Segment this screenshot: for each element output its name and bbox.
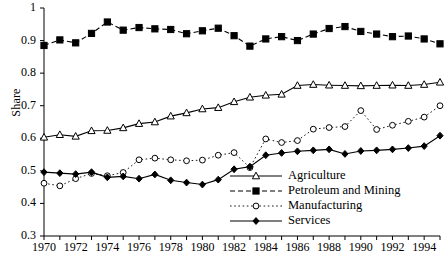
marker-diamond [279,150,285,157]
marker-square [183,31,189,37]
marker-square [374,31,380,37]
marker-square [57,37,63,43]
marker-square [263,36,269,42]
series-line [44,82,440,137]
marker-circle [168,157,174,163]
marker-circle [405,118,411,124]
marker-square [437,41,443,47]
marker-square [279,34,285,40]
marker-circle [326,125,332,131]
marker-square [152,26,158,32]
marker-diamond [405,145,411,152]
marker-circle [358,108,364,114]
series-line [44,22,440,46]
marker-square [421,36,427,42]
marker-diamond [263,152,269,159]
series-petroleum-and-mining [41,19,443,49]
marker-square [104,19,110,25]
marker-circle [374,127,380,133]
marker-diamond [136,175,142,182]
marker-diamond [57,170,63,177]
marker-circle [279,140,285,146]
marker-square [358,28,364,34]
marker-square [294,37,300,43]
chart-figure: Share 0.30.40.50.60.70.80.91 19701972197… [0,0,448,265]
marker-square [231,33,237,39]
marker-circle [263,136,269,142]
marker-square [73,40,79,46]
marker-diamond [199,181,205,188]
marker-diamond [215,176,221,183]
legend-symbol [228,213,284,228]
marker-circle [390,122,396,128]
marker-circle [437,103,443,109]
marker-square [310,31,316,37]
marker-diamond [437,132,443,139]
marker-circle [184,158,190,164]
marker-circle [41,180,47,186]
marker-square [168,26,174,32]
marker-diamond [389,146,395,153]
marker-triangle [436,78,443,85]
marker-triangle [56,131,63,138]
marker-circle [215,152,221,158]
marker-circle [295,138,301,144]
legend-item: Services [228,213,401,228]
marker-diamond [421,143,427,150]
marker-diamond [326,146,332,153]
marker-diamond [41,169,47,176]
marker-diamond [253,218,259,225]
marker-square [215,25,221,31]
marker-square [41,42,47,48]
legend-item: Agriculture [228,168,401,183]
legend-label: Petroleum and Mining [284,183,401,198]
marker-diamond [310,147,316,154]
legend-label: Services [284,213,330,228]
marker-square [247,43,253,49]
marker-circle [421,114,427,120]
legend-symbol [228,183,284,198]
marker-square [253,188,259,194]
marker-circle [200,157,206,163]
marker-circle [253,203,259,209]
legend-symbol [228,168,284,183]
marker-square [405,33,411,39]
legend-symbol [228,198,284,213]
marker-diamond [342,151,348,158]
marker-triangle [310,81,317,88]
marker-square [136,24,142,30]
marker-circle [136,157,142,163]
marker-square [389,34,395,40]
marker-diamond [152,171,158,178]
marker-square [342,23,348,29]
marker-diamond [374,147,380,154]
marker-diamond [358,148,364,155]
series-agriculture [40,78,443,140]
marker-circle [342,124,348,130]
marker-triangle [278,91,285,98]
marker-square [199,28,205,34]
legend-label: Manufacturing [284,198,362,213]
marker-circle [310,126,316,132]
marker-diamond [168,177,174,184]
marker-circle [57,183,63,189]
chart-legend: AgriculturePetroleum and MiningManufactu… [228,168,401,228]
marker-diamond [294,148,300,155]
marker-square [120,27,126,33]
legend-item: Petroleum and Mining [228,183,401,198]
marker-circle [231,150,237,156]
legend-label: Agriculture [284,168,346,183]
marker-diamond [183,179,189,186]
marker-square [88,30,94,36]
marker-circle [152,155,158,161]
marker-square [326,25,332,31]
legend-item: Manufacturing [228,198,401,213]
